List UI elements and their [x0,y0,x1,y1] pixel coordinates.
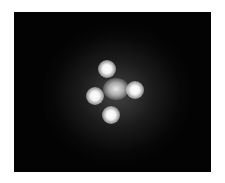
source-bottom [102,106,120,124]
source-top [98,60,116,78]
source-left [86,87,104,105]
astronomical-image [14,12,211,172]
source-right [126,81,144,99]
